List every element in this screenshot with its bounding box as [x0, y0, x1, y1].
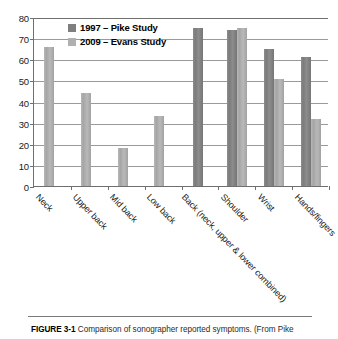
bar-pike — [227, 30, 237, 186]
x-axis-tick — [182, 186, 183, 190]
caption-divider — [28, 316, 312, 317]
bar-evans — [237, 28, 247, 186]
y-axis-tick-label: 0 — [24, 182, 29, 193]
x-axis-tick — [292, 186, 293, 190]
bar-evans — [154, 116, 164, 186]
legend-entry-pike: 1997 – Pike Study — [68, 21, 166, 34]
figure-root: 01020304050607080 1997 – Pike Study 2009… — [0, 0, 338, 339]
y-axis-tick-label: 70 — [19, 34, 29, 45]
bar-pike — [193, 28, 203, 186]
bar-evans — [311, 119, 321, 186]
legend-swatch-icon — [68, 24, 76, 32]
x-axis-tick — [108, 186, 109, 190]
y-axis-tick-label: 50 — [19, 76, 29, 87]
bar-evans — [274, 79, 284, 186]
x-axis-tick — [255, 186, 256, 190]
x-axis-tick — [145, 186, 146, 190]
legend-entry-evans: 2009 – Evans Study — [68, 35, 166, 48]
caption-text: Comparison of sonographer reported sympt… — [78, 325, 294, 334]
bar-pike — [264, 49, 274, 186]
y-axis-tick-label: 30 — [19, 118, 29, 129]
y-axis-tick-label: 20 — [19, 139, 29, 150]
caption-label: FIGURE 3-1 — [31, 325, 76, 334]
legend: 1997 – Pike Study 2009 – Evans Study — [68, 21, 166, 49]
legend-swatch-icon — [68, 38, 76, 46]
x-axis-tick — [71, 186, 72, 190]
legend-label-evans: 2009 – Evans Study — [80, 36, 166, 47]
x-axis-tick — [329, 186, 330, 190]
y-axis-tick-label: 60 — [19, 55, 29, 66]
bar-chart: 01020304050607080 1997 – Pike Study 2009… — [0, 0, 338, 300]
legend-label-pike: 1997 – Pike Study — [80, 22, 158, 33]
y-axis-tick — [30, 187, 34, 188]
y-axis-tick-label: 10 — [19, 160, 29, 171]
figure-caption: FIGURE 3-1 Comparison of sonographer rep… — [31, 324, 321, 335]
bar-pike — [301, 57, 311, 186]
bar-evans — [118, 148, 128, 186]
bar-evans — [81, 93, 91, 186]
bar-evans — [44, 47, 54, 186]
x-axis-tick — [218, 186, 219, 190]
y-axis-tick-label: 40 — [19, 97, 29, 108]
y-axis-tick-label: 80 — [19, 13, 29, 24]
